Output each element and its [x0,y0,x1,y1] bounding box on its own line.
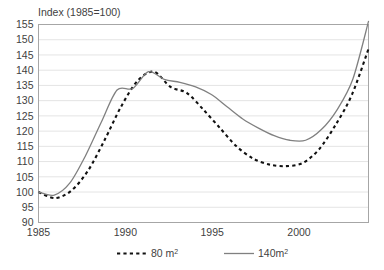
x-axis-tick-label: 2000 [287,226,311,238]
y-axis-tick-label: 95 [22,201,34,213]
y-axis-tick-labels: 9095100105110115120125130135140145150155 [16,18,34,228]
plot-area-border [39,25,369,223]
y-axis-tick-label: 105 [16,171,34,183]
x-axis-tick-labels: 1985199019952000 [27,226,311,238]
y-axis-tick-label: 120 [16,125,34,137]
y-axis-tick-label: 155 [16,18,34,30]
y-axis-tick-label: 150 [16,33,34,45]
chart-container: 9095100105110115120125130135140145150155… [0,0,384,270]
y-axis-tick-label: 110 [17,155,34,167]
gridlines [39,25,369,208]
legend-label-140sqm: 140m2 [258,247,288,259]
data-series-group [39,21,369,198]
chart-legend: 80 m2140m2 [117,247,288,259]
line-chart: 9095100105110115120125130135140145150155… [0,0,384,270]
series-line-80sqm [39,49,369,198]
y-axis-tick-label: 115 [17,140,34,152]
y-axis-tick-label: 100 [16,186,34,198]
y-axis-tick-label: 140 [16,64,34,76]
y-axis-tick-label: 145 [16,49,34,61]
legend-label-80sqm: 80 m2 [151,247,178,259]
y-axis-tick-label: 130 [16,94,34,106]
x-axis-tick-label: 1995 [201,226,225,238]
x-axis-tick-label: 1990 [114,226,138,238]
y-axis-tick-label: 135 [16,79,34,91]
series-line-140sqm [39,21,369,195]
x-axis-tick-label: 1985 [27,226,51,238]
y-axis-tick-label: 125 [16,110,34,122]
chart-title: Index (1985=100) [38,6,121,18]
